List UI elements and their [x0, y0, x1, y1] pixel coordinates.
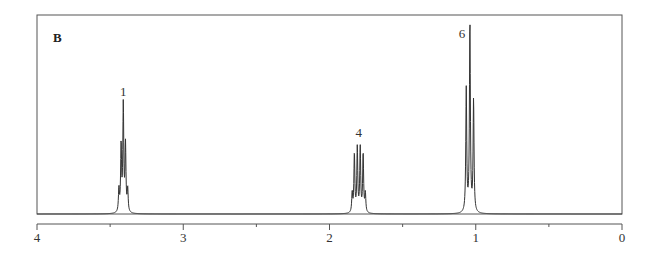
- peak-label: 1: [120, 84, 127, 100]
- tick-label: 1: [473, 230, 480, 246]
- nmr-spectrum-chart: [0, 0, 655, 257]
- tick-label: 4: [34, 230, 41, 246]
- spectrum-trace: [37, 25, 622, 214]
- peak-label: 4: [356, 125, 363, 141]
- tick-label: 2: [326, 230, 333, 246]
- tick-label: 3: [180, 230, 187, 246]
- panel-label: B: [53, 30, 62, 46]
- plot-frame: [37, 15, 622, 214]
- peak-label: 6: [459, 26, 466, 42]
- tick-label: 0: [619, 230, 626, 246]
